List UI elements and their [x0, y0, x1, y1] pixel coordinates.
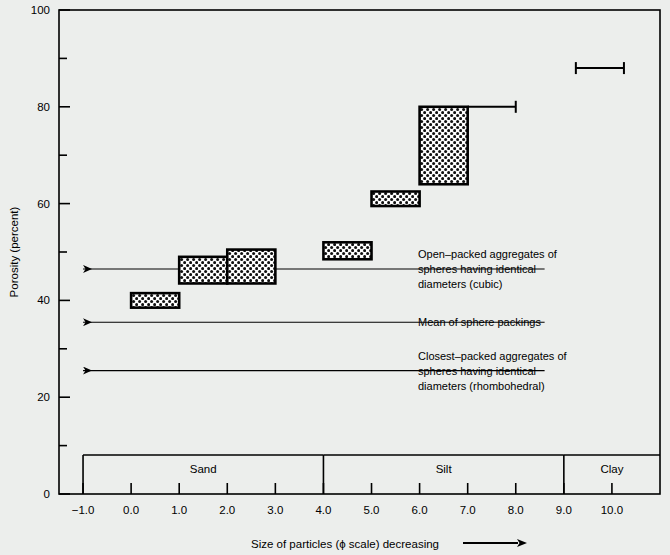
sand-coarse-silt-box-fill [227, 250, 275, 284]
sand-very-fine-box-fill [179, 257, 227, 284]
sand-coarse-silt-box [227, 250, 275, 284]
y-axis-tick-label: 0 [44, 488, 50, 500]
chart-container: 020406080100 Porosity (percent) −1.00.01… [0, 0, 670, 555]
open-packed-annotation-line: diameters (cubic) [418, 278, 502, 290]
y-axis-title: Porosity (percent) [8, 206, 20, 297]
y-axis-tick-label: 100 [31, 4, 50, 16]
chart-background [0, 0, 670, 555]
x-axis-tick-label: 4.0 [315, 504, 331, 516]
sand-fine-box-fill [131, 293, 179, 308]
silt-fine-box-fill [420, 107, 468, 184]
open-packed-annotation-line: spheres having identical [418, 263, 536, 275]
category-sand: Sand [190, 463, 217, 475]
x-axis-tick-label: 7.0 [460, 504, 476, 516]
silt-coarse-box [323, 242, 371, 259]
silt-fine-box [420, 107, 468, 184]
sand-fine-box [131, 293, 179, 308]
closest-packed-annotation-line: Closest–packed aggregates of [418, 350, 568, 362]
y-axis-tick-label: 60 [37, 198, 50, 210]
y-axis-tick-label: 40 [37, 294, 50, 306]
x-axis-tick-label: 8.0 [508, 504, 524, 516]
sand-very-fine-box [179, 257, 227, 284]
mean-packing-annotation-line: Mean of sphere packings [418, 316, 541, 328]
category-clay: Clay [600, 463, 623, 475]
x-axis-tick-label: 0.0 [123, 504, 139, 516]
open-packed-annotation-line: Open–packed aggregates of [418, 248, 558, 260]
silt-medium-box [372, 192, 420, 207]
category-silt: Silt [436, 463, 453, 475]
x-axis-tick-label: 3.0 [267, 504, 283, 516]
silt-coarse-box-fill [323, 242, 371, 259]
y-axis-tick-label: 80 [37, 101, 50, 113]
mean-packing-annotation: Mean of sphere packings [418, 316, 541, 328]
x-axis-tick-label: 2.0 [219, 504, 235, 516]
x-axis-tick-label: 6.0 [412, 504, 428, 516]
x-axis-tick-label: 10.0 [601, 504, 623, 516]
closest-packed-annotation-line: spheres having identical [418, 365, 536, 377]
closest-packed-annotation-line: diameters (rhombohedral) [418, 380, 545, 392]
x-axis-tick-label: 5.0 [364, 504, 380, 516]
x-axis-tick-label: 1.0 [171, 504, 187, 516]
porosity-vs-particle-size-chart: 020406080100 Porosity (percent) −1.00.01… [0, 0, 670, 555]
x-axis-tick-label: −1.0 [72, 504, 95, 516]
x-axis-tick-label: 9.0 [556, 504, 572, 516]
x-axis-title: Size of particles (ϕ scale) decreasing [251, 538, 439, 550]
y-axis-tick-label: 20 [37, 391, 50, 403]
silt-medium-box-fill [372, 192, 420, 207]
